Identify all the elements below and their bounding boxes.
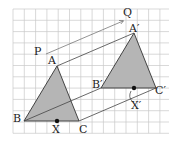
label-b: B — [13, 112, 21, 125]
label-x: X — [52, 123, 60, 136]
translation-diagram: P Q A B C X A′ B′ C′ X′ — [0, 0, 169, 142]
label-a: A — [47, 54, 57, 67]
label-c: C — [79, 123, 87, 136]
label-c-prime: C′ — [155, 84, 166, 97]
label-q: Q — [123, 6, 132, 19]
line-c-to-c-prime — [79, 88, 156, 121]
label-a-prime: A′ — [128, 22, 140, 35]
label-x-prime: X′ — [131, 99, 142, 112]
triangle-a-prime-b-prime-c-prime — [101, 33, 156, 88]
point-x-prime-dot — [132, 86, 136, 90]
label-b-prime: B′ — [92, 78, 103, 91]
triangle-abc — [24, 66, 79, 121]
vector-pq-arrow — [46, 21, 123, 54]
label-p: P — [34, 45, 42, 58]
